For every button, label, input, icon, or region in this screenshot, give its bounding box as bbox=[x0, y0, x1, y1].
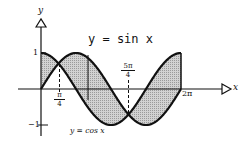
x-axis-label: x bbox=[233, 82, 238, 92]
chart-title: y = sin x bbox=[88, 32, 153, 46]
cos-curve-label: y = cos x bbox=[70, 126, 104, 135]
y-tick-label-neg1: −1 bbox=[28, 120, 40, 129]
x-tick-5pi-over-4-num: 5π bbox=[121, 62, 135, 70]
x-tick-pi-over-4-num: π bbox=[54, 91, 65, 99]
x-tick-5pi-over-4-den: 4 bbox=[121, 70, 135, 79]
y-tick-label-1: 1 bbox=[33, 48, 38, 57]
y-axis-label: y bbox=[38, 5, 43, 15]
x-tick-pi-over-4: π 4 bbox=[54, 91, 65, 108]
x-tick-2pi: 2π bbox=[182, 89, 192, 98]
x-tick-5pi-over-4: 5π 4 bbox=[121, 62, 135, 79]
x-axis-arrow bbox=[222, 84, 231, 94]
y-axis-arrow bbox=[36, 19, 46, 27]
x-tick-pi-over-4-den: 4 bbox=[54, 99, 65, 108]
